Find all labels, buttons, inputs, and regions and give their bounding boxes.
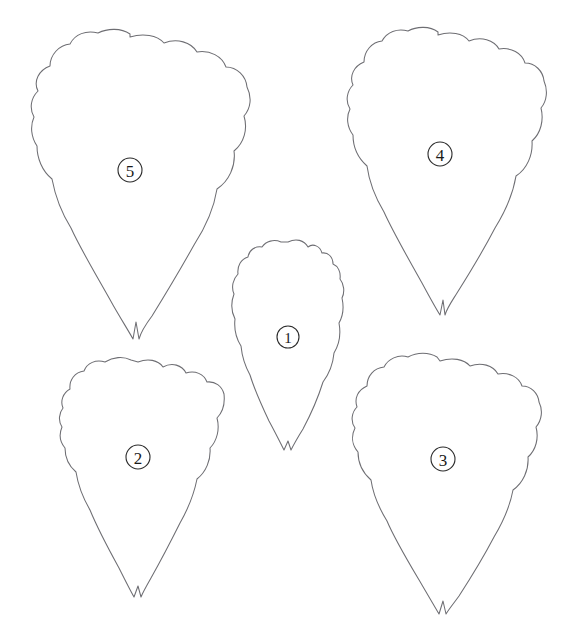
label-text-1: 1 — [284, 330, 292, 346]
label-text-2: 2 — [134, 449, 143, 468]
petal-plate-svg: 5 4 1 2 3 — [0, 0, 563, 636]
drawing-plate: 5 4 1 2 3 — [0, 0, 563, 636]
label-text-3: 3 — [439, 451, 448, 470]
label-text-5: 5 — [126, 162, 135, 181]
label-text-4: 4 — [436, 146, 445, 165]
